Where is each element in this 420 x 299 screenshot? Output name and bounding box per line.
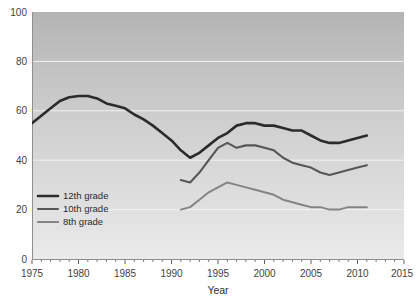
y-tick-label-20: 20 (16, 204, 28, 215)
y-tick-label-0: 0 (21, 254, 27, 265)
x-axis-tick-labels: 1975 1980 1985 1990 1995 2000 2005 2010 … (21, 268, 414, 279)
x-tick-label-1995: 1995 (207, 268, 230, 279)
x-tick-label-2005: 2005 (300, 268, 323, 279)
x-tick-label-1980: 1980 (67, 268, 90, 279)
line-chart: 100 80 60 40 20 0 1975 1980 1985 1990 19… (0, 0, 420, 299)
legend-label-12th-grade: 12th grade (63, 190, 108, 201)
x-tick-label-1975: 1975 (21, 268, 44, 279)
legend-label-10th-grade: 10th grade (63, 203, 108, 214)
y-tick-label-40: 40 (16, 155, 28, 166)
chart-legend: 12th grade 10th grade 8th grade (38, 190, 108, 227)
x-axis-ticks (32, 260, 404, 264)
x-axis-title: Year (207, 284, 229, 296)
y-tick-label-100: 100 (10, 7, 27, 18)
x-tick-label-2000: 2000 (253, 268, 276, 279)
y-axis-tick-labels: 100 80 60 40 20 0 (10, 7, 27, 265)
legend-label-8th-grade: 8th grade (63, 216, 103, 227)
chart-container: 100 80 60 40 20 0 1975 1980 1985 1990 19… (0, 0, 420, 299)
x-tick-label-2015: 2015 (391, 268, 414, 279)
x-tick-label-1985: 1985 (114, 268, 137, 279)
x-tick-label-2010: 2010 (346, 268, 369, 279)
x-tick-label-1990: 1990 (160, 268, 183, 279)
y-tick-label-60: 60 (16, 105, 28, 116)
y-tick-label-80: 80 (16, 56, 28, 67)
